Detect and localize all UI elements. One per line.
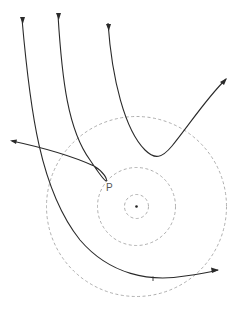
- trajectory-1: [22, 19, 218, 278]
- trajectory-1-start-arrow: [20, 17, 25, 24]
- trajectory-1-end-arrow: [211, 268, 219, 274]
- point-p-label: P: [106, 182, 113, 193]
- diagram-canvas: P: [0, 0, 237, 311]
- central-body: [135, 205, 138, 208]
- trajectory-3-start-arrow: [106, 24, 111, 31]
- trajectory-3: [108, 23, 226, 156]
- trajectory-2-end-arrow: [10, 140, 17, 145]
- trajectory-2-start-arrow: [56, 13, 61, 20]
- trajectory-2: [12, 15, 107, 181]
